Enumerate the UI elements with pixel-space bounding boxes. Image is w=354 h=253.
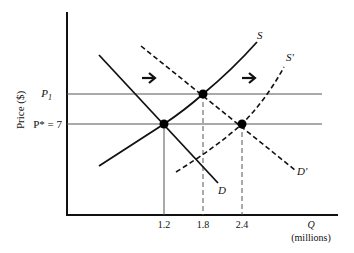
x-axis-label: Q xyxy=(307,219,315,230)
x-tick-2-4: 2.4 xyxy=(236,219,249,230)
x-axis-unit: (millions) xyxy=(291,232,330,244)
supply-curve xyxy=(99,42,257,166)
equilibrium-point-1 xyxy=(160,120,169,129)
equilibrium-point-2 xyxy=(199,90,208,99)
y-axis-label: Price ($) xyxy=(14,91,27,130)
x-tick-1-8: 1.8 xyxy=(197,219,210,230)
shift-arrow-icon-supply xyxy=(242,73,255,83)
supply-label: S xyxy=(257,29,263,41)
demand-curve xyxy=(99,55,218,183)
equilibrium-point-3 xyxy=(238,120,247,129)
pstar-label: P* = 7 xyxy=(33,118,62,130)
shift-arrow-icon-demand xyxy=(142,73,155,83)
demand-shifted-label: D' xyxy=(296,165,308,177)
x-tick-1-2: 1.2 xyxy=(158,219,171,230)
supply-shifted-label: S' xyxy=(286,51,295,63)
supply-demand-diagram: S S' D D' P1 P* = 7 Price ($) 1.2 1.8 2.… xyxy=(0,0,354,253)
demand-label: D xyxy=(217,184,226,196)
p1-label: P1 xyxy=(40,87,52,102)
